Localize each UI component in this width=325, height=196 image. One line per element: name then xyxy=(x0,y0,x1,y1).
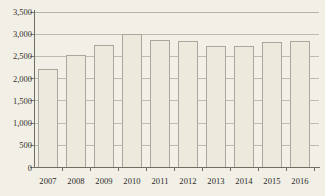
bar-2007[interactable] xyxy=(38,69,58,168)
y-axis-line xyxy=(34,10,35,168)
xtick-mark-10 xyxy=(314,167,315,171)
bar-slot-2007 xyxy=(38,12,58,168)
ytick-label-1500: 1,500 xyxy=(0,96,32,106)
bar-slot-2008 xyxy=(66,12,86,168)
xtick-mark-6 xyxy=(202,167,203,171)
xtick-mark-8 xyxy=(258,167,259,171)
xlabel-2012: 2012 xyxy=(174,176,202,186)
bar-slot-2011 xyxy=(150,12,170,168)
bar-2014[interactable] xyxy=(234,46,254,168)
ytick-label-500: 500 xyxy=(0,140,32,150)
xlabel-2007: 2007 xyxy=(34,176,62,186)
ytick-label-3000: 3,000 xyxy=(0,29,32,39)
xtick-mark-2 xyxy=(90,167,91,171)
xtick-mark-1 xyxy=(62,167,63,171)
xlabel-2011: 2011 xyxy=(146,176,174,186)
bar-slot-2009 xyxy=(94,12,114,168)
xlabel-2016: 2016 xyxy=(286,176,314,186)
xtick-mark-7 xyxy=(230,167,231,171)
xtick-mark-9 xyxy=(286,167,287,171)
bar-2011[interactable] xyxy=(150,40,170,168)
bar-slot-2014 xyxy=(234,12,254,168)
bar-2013[interactable] xyxy=(206,46,226,168)
bar-2010[interactable] xyxy=(122,34,142,168)
ytick-label-3500: 3,500 xyxy=(0,7,32,17)
ytick-label-1000: 1,000 xyxy=(0,118,32,128)
ytick-label-2500: 2,500 xyxy=(0,51,32,61)
xlabel-2013: 2013 xyxy=(202,176,230,186)
xtick-mark-5 xyxy=(174,167,175,171)
bar-2008[interactable] xyxy=(66,55,86,168)
xlabel-2014: 2014 xyxy=(230,176,258,186)
bar-2012[interactable] xyxy=(178,41,198,168)
xlabel-2009: 2009 xyxy=(90,176,118,186)
bar-chart: 3,500 3,000 2,500 2,000 1,500 1,000 500 … xyxy=(0,0,325,196)
xlabel-2015: 2015 xyxy=(258,176,286,186)
bar-slot-2015 xyxy=(262,12,282,168)
bar-slot-2016 xyxy=(290,12,310,168)
bar-2009[interactable] xyxy=(94,45,114,169)
bar-slot-2012 xyxy=(178,12,198,168)
xlabel-2010: 2010 xyxy=(118,176,146,186)
xtick-mark-4 xyxy=(146,167,147,171)
bar-2015[interactable] xyxy=(262,42,282,168)
bar-2016[interactable] xyxy=(290,41,310,169)
xlabel-2008: 2008 xyxy=(62,176,90,186)
bar-slot-2013 xyxy=(206,12,226,168)
xtick-mark-3 xyxy=(118,167,119,171)
ytick-label-0: 0 xyxy=(0,163,32,173)
x-axis-line xyxy=(34,167,320,168)
ytick-label-2000: 2,000 xyxy=(0,74,32,84)
bar-slot-2010 xyxy=(122,12,142,168)
bar-series xyxy=(34,11,320,168)
